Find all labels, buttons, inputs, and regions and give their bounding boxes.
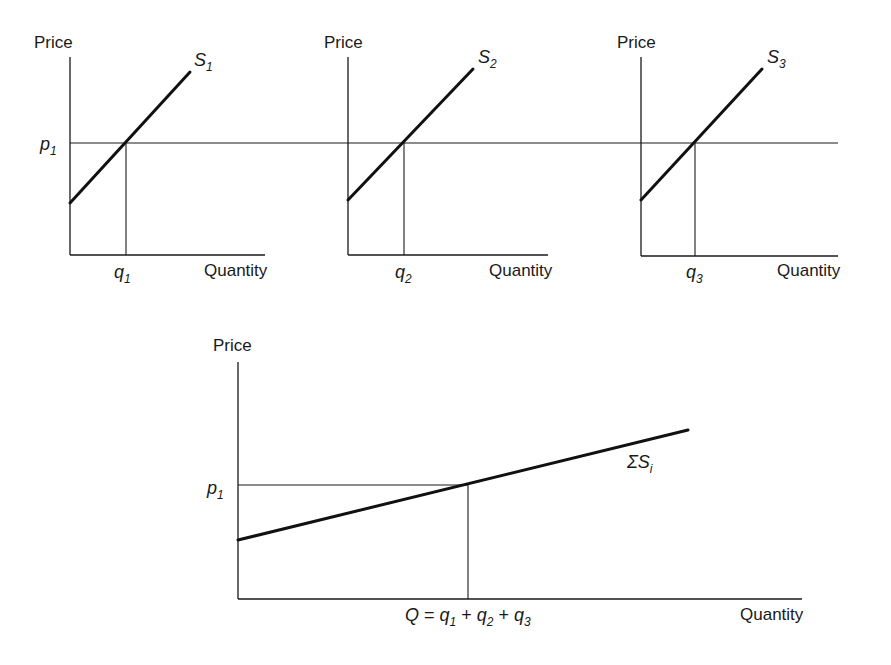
supply-curve-s3	[641, 69, 762, 200]
s3-label: S3	[767, 47, 786, 71]
chart-market-supply: Price ΣSi p1 Q = q1 + q2 + q3 Quantity	[206, 336, 804, 629]
x-axis-label: Quantity	[740, 605, 804, 624]
p1-label: p1	[206, 478, 224, 502]
y-axis-label: Price	[324, 33, 363, 52]
y-axis-label: Price	[213, 336, 252, 355]
chart-firm-3: Price S3 q3 Quantity	[617, 33, 841, 286]
s2-label: S2	[478, 47, 497, 71]
x-axis-label: Quantity	[489, 261, 553, 280]
q2-label: q2	[395, 262, 412, 286]
y-axis-label: Price	[617, 33, 656, 52]
supply-curve-s1	[70, 72, 190, 203]
s1-label: S1	[194, 50, 213, 74]
sum-si-label: ΣSi	[626, 452, 653, 476]
chart-firm-2: Price S2 q2 Quantity	[324, 33, 553, 286]
p1-label: p1	[39, 134, 57, 158]
q-sum-label: Q = q1 + q2 + q3	[405, 605, 531, 629]
x-axis-label: Quantity	[777, 261, 841, 280]
y-axis-label: Price	[34, 33, 73, 52]
q1-label: q1	[114, 262, 131, 286]
supply-aggregation-diagram: Price S1 p1 q1 Quantity Price S2 q2 Quan…	[0, 0, 891, 665]
chart-firm-1: Price S1 p1 q1 Quantity	[34, 33, 268, 286]
supply-curve-s2	[348, 69, 473, 200]
q3-label: q3	[686, 262, 703, 286]
x-axis-label: Quantity	[204, 261, 268, 280]
